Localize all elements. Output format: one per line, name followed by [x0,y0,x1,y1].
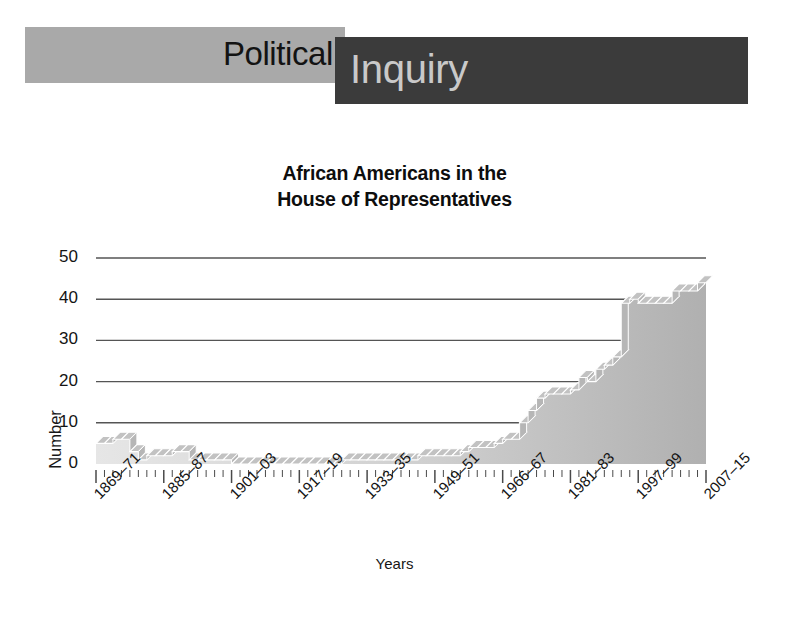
chart-area-series [96,276,713,464]
banner-political: Political [25,27,345,83]
area-front-face [96,283,706,464]
banner-inquiry-label: Inquiry [350,46,468,91]
plot-area: 01020304050 1869–711885–871901–031917–19… [0,130,789,620]
y-axis-title: Number [46,380,65,500]
x-axis-title: Years [0,555,789,572]
area-top-face [698,276,713,283]
banner-political-label: Political [223,35,333,73]
page-header-banner: Political Inquiry [0,0,789,130]
chart-figure: African Americans in the House of Repres… [0,130,789,620]
y-axis-tick-label: 50 [38,247,78,267]
chart-canvas [0,130,789,620]
banner-inquiry: Inquiry [335,37,748,104]
y-axis-tick-label: 30 [38,329,78,349]
y-axis-tick-label: 40 [38,288,78,308]
area-riser-face [621,296,628,357]
